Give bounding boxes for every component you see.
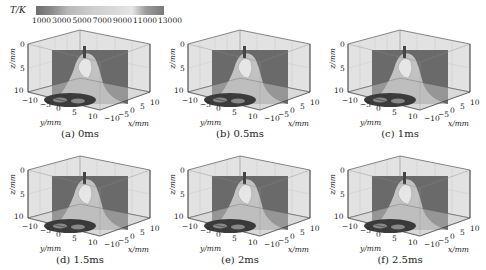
y-tick: 0: [216, 230, 221, 239]
z-axis-label: z/mm: [8, 48, 17, 69]
x-tick: −5: [438, 236, 449, 245]
z-tick: 5: [340, 190, 345, 199]
3d-plot: [320, 24, 480, 124]
z-tick: 10: [334, 86, 344, 95]
x-tick: 5: [300, 102, 305, 111]
3d-plot: [160, 150, 320, 250]
y-tick: 5: [392, 234, 397, 243]
z-tick: 0: [20, 166, 25, 175]
x-tick: −5: [118, 110, 129, 119]
x-tick: 10: [310, 224, 320, 233]
x-tick: 10: [150, 224, 160, 233]
x-tick: 0: [130, 232, 135, 241]
x-tick: −5: [438, 110, 449, 119]
y-tick: −5: [200, 226, 211, 235]
x-tick: 10: [150, 98, 160, 107]
y-axis-label: y/mm: [360, 244, 381, 253]
y-tick: 5: [392, 108, 397, 117]
y-tick: 5: [72, 234, 77, 243]
x-axis-label: x/mm: [448, 245, 469, 254]
y-tick: −10: [182, 222, 198, 231]
x-tick: 5: [460, 228, 465, 237]
x-axis-label: x/mm: [128, 245, 149, 254]
colorbar-gradient: [36, 6, 164, 15]
y-tick: −5: [40, 226, 51, 235]
z-axis-label: z/mm: [168, 48, 177, 69]
z-tick: 10: [174, 212, 184, 221]
x-tick: −5: [278, 236, 289, 245]
z-tick: 0: [20, 40, 25, 49]
y-tick: 10: [248, 238, 258, 247]
z-axis-label: z/mm: [328, 48, 337, 69]
x-tick: 10: [310, 98, 320, 107]
z-tick: 10: [14, 212, 24, 221]
x-axis-label: x/mm: [128, 119, 149, 128]
y-tick: 10: [88, 238, 98, 247]
z-tick: 5: [180, 190, 185, 199]
colorbar-label: T/K: [10, 5, 26, 15]
3d-plot: [0, 150, 160, 250]
y-tick: −10: [342, 96, 358, 105]
z-tick: 10: [14, 86, 24, 95]
panel-a: z/mm0510−10−50510y/mm−10−50510x/mm(a) 0m…: [0, 24, 160, 142]
panel-e: z/mm0510−10−50510y/mm−10−50510x/mm(e) 2m…: [160, 150, 320, 268]
y-axis-label: y/mm: [360, 118, 381, 127]
x-tick: −5: [118, 236, 129, 245]
3d-plot: [320, 150, 480, 250]
z-axis-label: z/mm: [168, 174, 177, 195]
x-tick: 0: [450, 106, 455, 115]
x-tick: 10: [470, 98, 480, 107]
z-tick: 0: [180, 166, 185, 175]
x-tick: 5: [300, 228, 305, 237]
y-tick: −10: [182, 96, 198, 105]
z-axis-label: z/mm: [328, 174, 337, 195]
z-tick: 10: [334, 212, 344, 221]
panel-caption: (b) 0.5ms: [160, 128, 320, 139]
z-tick: 10: [174, 86, 184, 95]
panel-caption: (e) 2ms: [160, 254, 320, 265]
y-axis-label: y/mm: [200, 244, 221, 253]
y-tick: −5: [40, 100, 51, 109]
panel-caption: (f) 2.5ms: [320, 254, 480, 265]
y-tick: −5: [360, 100, 371, 109]
y-tick: −10: [22, 222, 38, 231]
y-tick: 0: [56, 104, 61, 113]
x-tick: 0: [450, 232, 455, 241]
y-axis-label: y/mm: [200, 118, 221, 127]
x-tick: 5: [460, 102, 465, 111]
x-tick: 0: [290, 106, 295, 115]
panel-caption: (c) 1ms: [320, 128, 480, 139]
y-tick: 10: [408, 112, 418, 121]
y-tick: 10: [248, 112, 258, 121]
x-tick: 0: [290, 232, 295, 241]
z-tick: 5: [20, 190, 25, 199]
z-tick: 0: [180, 40, 185, 49]
z-tick: 5: [340, 64, 345, 73]
y-tick: −10: [22, 96, 38, 105]
z-tick: 5: [180, 64, 185, 73]
y-tick: 0: [56, 230, 61, 239]
panel-caption: (d) 1.5ms: [0, 254, 160, 265]
x-tick: 5: [140, 228, 145, 237]
x-axis-label: x/mm: [448, 119, 469, 128]
z-tick: 0: [340, 40, 345, 49]
y-tick: −5: [200, 100, 211, 109]
3d-plot: [0, 24, 160, 124]
panel-b: z/mm0510−10−50510y/mm−10−50510x/mm(b) 0.…: [160, 24, 320, 142]
y-tick: −5: [360, 226, 371, 235]
z-tick: 0: [340, 166, 345, 175]
panel-f: z/mm0510−10−50510y/mm−10−50510x/mm(f) 2.…: [320, 150, 480, 268]
x-axis-label: x/mm: [288, 119, 309, 128]
panel-c: z/mm0510−10−50510y/mm−10−50510x/mm(c) 1m…: [320, 24, 480, 142]
y-axis-label: y/mm: [40, 244, 61, 253]
y-tick: 5: [232, 108, 237, 117]
z-axis-label: z/mm: [8, 174, 17, 195]
y-tick: 5: [232, 234, 237, 243]
x-tick: −5: [278, 110, 289, 119]
colorbar: T/K 1000 3000 5000 7000 9000 11000 13000: [10, 3, 170, 25]
y-tick: 5: [72, 108, 77, 117]
3d-plot: [160, 24, 320, 124]
x-tick: 0: [130, 106, 135, 115]
y-tick: 0: [216, 104, 221, 113]
y-axis-label: y/mm: [40, 118, 61, 127]
